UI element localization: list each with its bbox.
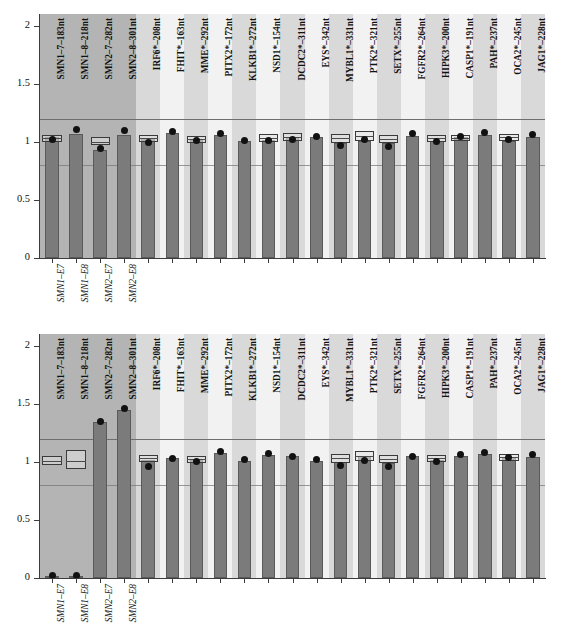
y-axis-tick (34, 578, 39, 579)
data-point-marker (121, 405, 128, 412)
x-axis-tick (172, 578, 173, 583)
y-axis-tick-label: 2 (2, 339, 30, 350)
bar (69, 134, 82, 258)
column-gene-label: SMN1–8–218nt (80, 18, 90, 79)
column-gene-label: SMN1–7–183nt (56, 338, 66, 399)
data-point-marker (241, 456, 248, 463)
column-gene-label: PTK2*–321nt (369, 338, 379, 393)
y-axis-tick (34, 404, 39, 405)
x-axis-tick (76, 578, 77, 583)
x-axis-tick (413, 578, 414, 583)
y-axis-line (39, 14, 40, 259)
bar (93, 150, 106, 258)
boxplot-median (139, 458, 158, 459)
bar (502, 141, 515, 258)
y-axis-line (39, 334, 40, 579)
data-point-marker (313, 133, 320, 140)
column-gene-label: HIPK3*–200nt (441, 18, 451, 78)
data-point-marker (457, 133, 464, 140)
x-axis-tick (533, 258, 534, 263)
bar (166, 133, 179, 258)
bar (141, 138, 154, 258)
data-point-marker (193, 137, 200, 144)
data-point-marker (289, 453, 296, 460)
data-point-marker (97, 418, 104, 425)
bar (382, 143, 395, 258)
column-gene-label: MME*–292nt (200, 338, 210, 393)
bar (286, 456, 299, 578)
x-axis-tick (293, 578, 294, 583)
x-axis-group-label: SMN1–E7 (56, 264, 66, 302)
x-axis-tick (172, 258, 173, 263)
bar (141, 460, 154, 579)
column-gene-label: SMN2–7–282nt (104, 18, 114, 79)
bar (45, 137, 58, 258)
boxplot-median (379, 459, 398, 460)
x-axis-tick (100, 258, 101, 263)
x-axis-tick (148, 578, 149, 583)
x-axis-tick (461, 578, 462, 583)
column-gene-label: KLKB1*–272nt (248, 18, 258, 81)
chart-panel-top: SMN1–7–183ntSMN1–8–218ntSMN2–7–282ntSMN2… (0, 0, 564, 322)
x-axis-group-label: SMN1–E7 (56, 584, 66, 622)
x-axis-tick (365, 578, 366, 583)
column-gene-label: EYS*–342nt (321, 338, 331, 388)
column-gene-label: SMN2–8–301nt (128, 18, 138, 79)
data-point-marker (313, 456, 320, 463)
bar (526, 457, 539, 578)
y-axis-tick-label: 1.5 (2, 77, 30, 88)
column-gene-label: FHIT*–163nt (176, 18, 186, 72)
bar (238, 461, 251, 578)
column-gene-label: PITX2*–172nt (224, 338, 234, 396)
column-gene-label: IRF6*–208nt (152, 338, 162, 390)
data-point-marker (217, 448, 224, 455)
boxplot-median (91, 142, 110, 143)
y-axis-tick-label: 0 (2, 251, 30, 262)
x-axis-tick (244, 258, 245, 263)
data-point-marker (217, 130, 224, 137)
reference-line (40, 439, 545, 440)
column-gene-label: PAH*–237nt (489, 338, 499, 388)
column-gene-label: CASP1*–191nt (465, 338, 475, 398)
bar (117, 410, 130, 578)
column-gene-label: FHIT*–163nt (176, 338, 186, 392)
x-axis-tick (533, 578, 534, 583)
x-axis-tick (244, 578, 245, 583)
column-gene-label: DCDC2*–311nt (297, 18, 307, 81)
column-gene-label: JAG1*–228nt (537, 18, 547, 73)
bar (334, 143, 347, 258)
x-axis-tick (196, 578, 197, 583)
bar (214, 135, 227, 258)
column-gene-label: JAG1*–228nt (537, 338, 547, 393)
y-axis-tick (34, 26, 39, 27)
column-gene-label: MYBL1*–331nt (345, 338, 355, 402)
x-axis-tick (52, 578, 53, 583)
x-axis-tick (76, 258, 77, 263)
x-axis-tick (196, 258, 197, 263)
column-gene-label: FGFR2*–264nt (417, 18, 427, 79)
data-point-marker (169, 128, 176, 135)
x-axis-tick (389, 578, 390, 583)
bar (334, 462, 347, 578)
bar (310, 461, 323, 578)
x-axis-tick (148, 258, 149, 263)
bar (406, 456, 419, 578)
x-axis-tick (485, 578, 486, 583)
boxplot-median (331, 458, 350, 459)
column-gene-label: KLKB1*–272nt (248, 338, 258, 401)
y-axis-tick-label: 2 (2, 19, 30, 30)
data-point-marker (145, 463, 152, 470)
column-gene-label: MYBL1*–331nt (345, 18, 355, 82)
y-axis-tick-label: 0 (2, 571, 30, 582)
x-axis-tick (293, 258, 294, 263)
column-gene-label: HIPK3*–200nt (441, 338, 451, 398)
data-point-marker (121, 127, 128, 134)
bar (358, 141, 371, 258)
column-gene-label: OCA2*–245nt (513, 18, 523, 75)
boxplot-median (379, 139, 398, 140)
data-point-marker (169, 455, 176, 462)
x-axis-tick (268, 258, 269, 263)
data-point-marker (49, 136, 56, 143)
bar (286, 137, 299, 258)
bar (166, 458, 179, 578)
